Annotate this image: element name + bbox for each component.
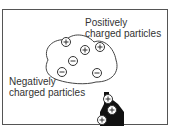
negative-particle-icon bbox=[58, 68, 67, 77]
positive-particle-icon bbox=[81, 46, 90, 55]
positive-particle-icon bbox=[96, 43, 105, 52]
label-positive-2: charged particles bbox=[85, 29, 161, 39]
negative-particle-icon bbox=[69, 57, 78, 66]
cloud-outline bbox=[46, 35, 117, 84]
label-positive-1: Positively bbox=[85, 18, 127, 28]
positive-particle-icon bbox=[108, 106, 117, 115]
positive-particle-icon bbox=[62, 38, 71, 47]
positive-particle-icon bbox=[104, 95, 113, 104]
negative-particle-icon bbox=[93, 69, 102, 78]
positive-particle-icon bbox=[98, 116, 107, 125]
label-negative-1: Negatively bbox=[9, 77, 56, 87]
label-negative-2: charged particles bbox=[9, 88, 85, 98]
